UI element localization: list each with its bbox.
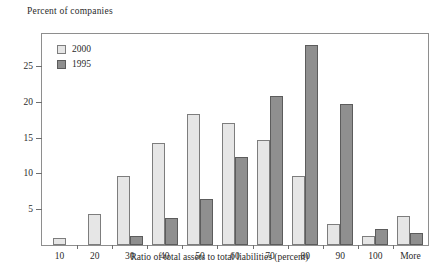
y-tick-mark [36,66,42,67]
bar-chart-figure: Percent of companies 510152025 102030405… [0,0,439,273]
bar-group [358,229,393,245]
bar-2000-50 [187,114,200,245]
x-tick-mark [182,245,183,249]
y-tick-label: 5 [28,204,33,214]
bar-group [288,45,323,245]
legend-swatch-icon [57,60,66,69]
legend-label: 2000 [72,45,91,55]
legend-label: 1995 [72,60,91,70]
y-axis-title: Percent of companies [27,6,113,16]
legend-swatch-icon [57,45,66,54]
bar-2000-100 [362,236,375,245]
bar-1995-40 [165,218,178,245]
legend-item-1995: 1995 [57,60,91,70]
bar-group [323,104,358,245]
bar-1995-80 [305,45,318,245]
y-tick-mark [36,138,42,139]
bar-2000-70 [257,140,270,245]
bar-2000-30 [117,176,130,245]
bar-group [253,96,288,245]
x-tick-mark [323,245,324,249]
bar-1995-More [410,233,423,245]
chart-legend: 20001995 [57,45,91,69]
bar-2000-10 [53,238,66,245]
x-tick-mark [288,245,289,249]
bar-1995-90 [340,104,353,245]
bar-group [42,238,77,245]
x-tick-mark [77,245,78,249]
bar-group [182,114,217,245]
y-tick-mark [36,173,42,174]
bar-1995-50 [200,199,213,245]
bar-2000-90 [327,224,340,245]
x-tick-mark [217,245,218,249]
bar-group [147,143,182,245]
bar-group [217,123,252,245]
bar-1995-100 [375,229,388,245]
y-tick-mark [36,102,42,103]
x-axis-title: Ratio of total assets to total liabiliti… [0,252,439,262]
plot-area: 510152025 102030405060708090100More [42,34,428,245]
x-tick-mark [253,245,254,249]
x-tick-mark [358,245,359,249]
legend-item-2000: 2000 [57,45,91,55]
bar-1995-60 [235,157,248,245]
bar-1995-70 [270,96,283,245]
bar-2000-More [397,216,410,245]
bar-group [393,216,428,245]
y-tick-label: 10 [24,168,34,178]
x-tick-mark [112,245,113,249]
bar-1995-30 [130,236,143,245]
x-tick-mark [393,245,394,249]
y-tick-mark [36,209,42,210]
y-tick-label: 25 [24,61,34,71]
bar-2000-60 [222,123,235,245]
bar-2000-80 [292,176,305,245]
y-tick-label: 15 [24,133,34,143]
bar-group [77,214,112,245]
bar-group [112,176,147,245]
y-tick-label: 20 [24,97,34,107]
bar-2000-20 [88,214,101,245]
x-tick-mark [147,245,148,249]
bar-2000-40 [152,143,165,245]
